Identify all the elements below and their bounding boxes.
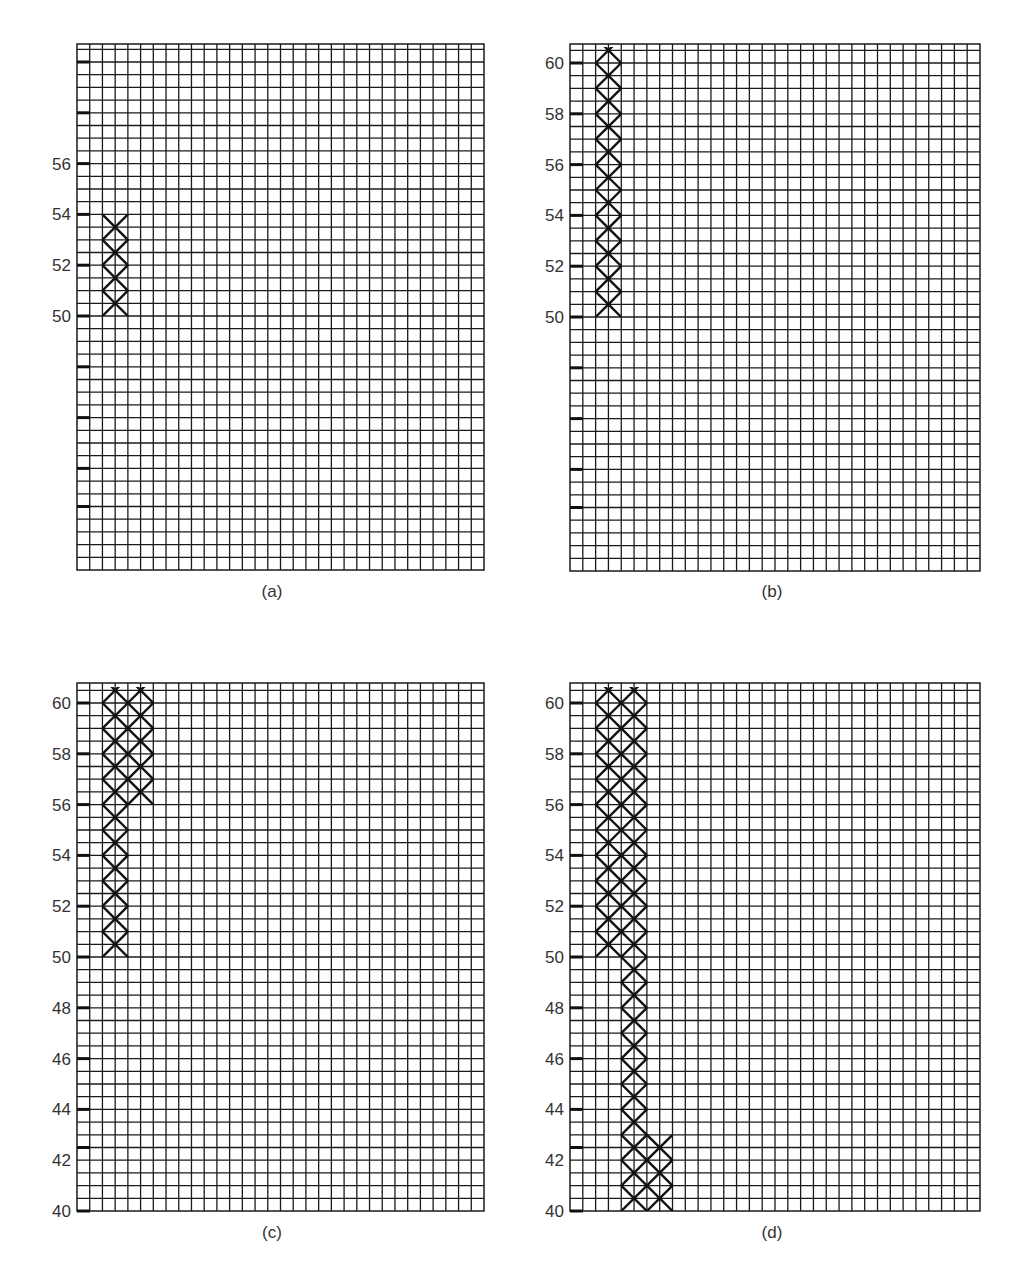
caption-a: (a) bbox=[262, 582, 283, 601]
y-tick-label: 50 bbox=[545, 308, 564, 327]
panel-b: 505254565860 bbox=[545, 12, 980, 571]
y-tick-label: 52 bbox=[545, 897, 564, 916]
y-tick-label: 58 bbox=[545, 105, 564, 124]
y-tick-label: 48 bbox=[52, 999, 71, 1018]
y-tick-label: 46 bbox=[545, 1050, 564, 1069]
y-tick-label: 52 bbox=[545, 257, 564, 276]
y-tick-label: 54 bbox=[52, 846, 71, 865]
y-tick-label: 52 bbox=[52, 256, 71, 275]
figure-canvas: 50525456 505254565860 404244464850525456… bbox=[0, 0, 1022, 1280]
y-tick-label: 44 bbox=[545, 1100, 564, 1119]
y-tick-label: 44 bbox=[52, 1100, 71, 1119]
y-tick-label: 56 bbox=[52, 155, 71, 174]
caption-c: (c) bbox=[262, 1223, 282, 1242]
y-tick-label: 46 bbox=[52, 1050, 71, 1069]
y-tick-label: 56 bbox=[545, 156, 564, 175]
y-tick-label: 60 bbox=[545, 54, 564, 73]
y-tick-label: 54 bbox=[545, 846, 564, 865]
y-tick-label: 56 bbox=[545, 796, 564, 815]
y-tick-label: 54 bbox=[545, 206, 564, 225]
panel-c: 4042444648505254565860 bbox=[52, 652, 484, 1221]
caption-d: (d) bbox=[762, 1223, 783, 1242]
y-tick-label: 54 bbox=[52, 205, 71, 224]
y-tick-label: 40 bbox=[545, 1202, 564, 1221]
y-tick-label: 50 bbox=[52, 948, 71, 967]
panel-a: 50525456 bbox=[52, 44, 484, 570]
panel-d: 4042444648505254565860 bbox=[545, 652, 980, 1221]
y-tick-label: 42 bbox=[52, 1151, 71, 1170]
y-tick-label: 50 bbox=[52, 307, 71, 326]
y-tick-label: 56 bbox=[52, 796, 71, 815]
y-tick-label: 58 bbox=[52, 745, 71, 764]
caption-b: (b) bbox=[762, 582, 783, 601]
y-tick-label: 42 bbox=[545, 1151, 564, 1170]
y-tick-label: 60 bbox=[52, 694, 71, 713]
y-tick-label: 50 bbox=[545, 948, 564, 967]
y-tick-label: 52 bbox=[52, 897, 71, 916]
y-tick-label: 40 bbox=[52, 1202, 71, 1221]
y-tick-label: 58 bbox=[545, 745, 564, 764]
y-tick-label: 60 bbox=[545, 694, 564, 713]
y-tick-label: 48 bbox=[545, 999, 564, 1018]
